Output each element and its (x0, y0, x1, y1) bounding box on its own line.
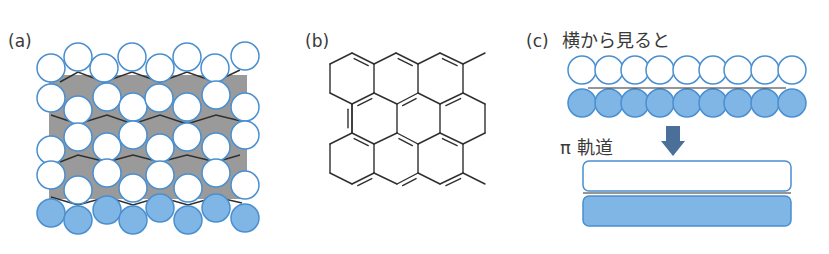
blue-atom (595, 89, 623, 117)
single-bond (418, 133, 440, 144)
white-atom (145, 84, 173, 112)
white-atom (699, 56, 727, 84)
blue-atom (174, 206, 202, 234)
white-atom (646, 56, 674, 84)
blue-atom (93, 196, 121, 224)
single-bond (374, 133, 397, 144)
white-atom (173, 93, 201, 121)
white-atom (37, 84, 65, 112)
white-atom (37, 161, 65, 189)
white-atom (202, 133, 230, 161)
white-atom (595, 56, 623, 84)
white-atom (174, 174, 202, 202)
white-atom (119, 121, 147, 149)
white-atom (231, 93, 259, 121)
white-atom (202, 159, 230, 187)
blue-atom (568, 89, 596, 117)
single-bond (374, 173, 397, 184)
blue-atom (621, 89, 649, 117)
white-atom (202, 81, 230, 109)
white-atom (751, 56, 779, 84)
white-atom (64, 43, 92, 71)
diagram-canvas (0, 0, 829, 254)
graphite-structure-figure: (a) (b) (c) 横から見ると π 軌道 (0, 0, 829, 254)
blue-atom (751, 89, 779, 117)
white-atom (201, 54, 229, 82)
blue-atom (119, 206, 147, 234)
white-atom (64, 176, 92, 204)
white-atom (568, 56, 596, 84)
blue-atom (699, 89, 727, 117)
blue-atom (146, 194, 174, 222)
white-atom (778, 56, 806, 84)
white-atom (673, 56, 701, 84)
white-atom (231, 42, 259, 70)
white-atom (173, 43, 201, 71)
blue-atom (202, 194, 230, 222)
white-atom (37, 54, 65, 82)
pi-orbital-lower (583, 196, 791, 226)
white-atom (90, 54, 118, 82)
white-atom (119, 93, 147, 121)
single-bond (463, 93, 485, 104)
blue-atom (778, 89, 806, 117)
single-bond (330, 93, 352, 104)
panel-b-hexagonal-lattice (330, 53, 485, 186)
single-bond (463, 133, 485, 144)
white-atom (93, 159, 121, 187)
single-bond (418, 173, 440, 184)
single-bond (418, 53, 440, 64)
white-atom (146, 54, 174, 82)
pi-orbital-upper (583, 161, 791, 191)
white-atom (146, 161, 174, 189)
down-arrow-icon (661, 126, 685, 156)
panel-c-side-view (568, 56, 806, 226)
panel-a-layer-stack (37, 42, 259, 234)
white-atom (621, 56, 649, 84)
single-bond (374, 93, 397, 104)
single-bond (374, 53, 396, 64)
blue-atom (37, 199, 65, 227)
single-bond (330, 133, 352, 144)
white-atom (93, 83, 121, 111)
white-atom (146, 134, 174, 162)
white-atom (173, 123, 201, 151)
white-atom (64, 123, 92, 151)
white-atom (231, 171, 259, 199)
white-atom (724, 56, 752, 84)
blue-atom (231, 204, 259, 232)
single-bond (330, 53, 352, 64)
white-atom (119, 174, 147, 202)
white-atom (231, 121, 259, 149)
white-atom (37, 136, 65, 164)
blue-atom (724, 89, 752, 117)
single-bond (463, 53, 485, 64)
white-atom (118, 43, 146, 71)
white-atom (93, 133, 121, 161)
white-atom (64, 96, 92, 124)
single-bond (330, 173, 352, 184)
blue-atom (646, 89, 674, 117)
blue-atom (64, 206, 92, 234)
single-bond (418, 93, 440, 104)
single-bond (463, 173, 485, 184)
blue-atom (673, 89, 701, 117)
